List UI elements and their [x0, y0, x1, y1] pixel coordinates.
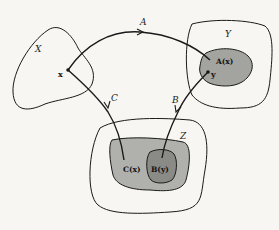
- subset-cx-label: C(x): [123, 165, 141, 174]
- set-z-label: Z: [179, 131, 187, 141]
- subset-ax-label: A(x): [215, 57, 233, 66]
- point-x-label: x: [58, 69, 63, 79]
- subset-by-label: B(y): [151, 165, 169, 174]
- arrow-b-label: B: [171, 95, 179, 105]
- set-y-label: Y: [225, 29, 232, 39]
- diagram-canvas: X Y A(x) Z C(x) B(y) x y A C B: [0, 0, 279, 230]
- diagram-svg: X Y A(x) Z C(x) B(y) x y A C B: [0, 0, 279, 230]
- set-x-label: X: [34, 44, 42, 54]
- arrow-a-label: A: [139, 17, 147, 27]
- subset-ax-region: [200, 49, 253, 86]
- arrow-c-label: C: [111, 93, 118, 103]
- set-x-boundary: [13, 28, 94, 109]
- point-y-label: y: [210, 69, 216, 79]
